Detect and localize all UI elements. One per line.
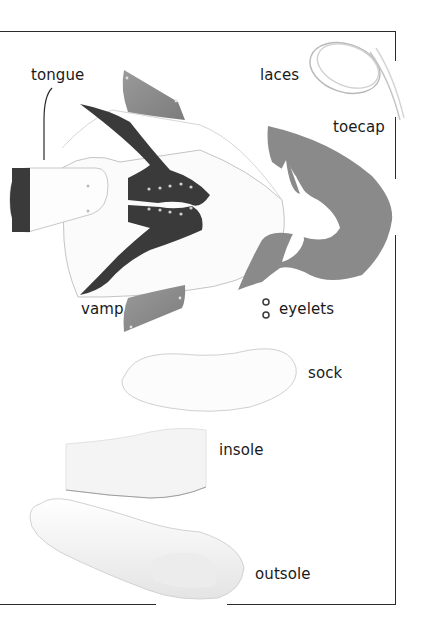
tongue-leader-line (44, 88, 52, 160)
label-tongue: tongue (31, 68, 84, 83)
insole-piece (66, 428, 206, 498)
label-insole: insole (219, 443, 264, 458)
heel-counter-top (123, 70, 185, 120)
laces-artwork (303, 34, 404, 120)
sock-piece (122, 349, 296, 411)
label-outsole: outsole (255, 567, 311, 582)
eyelets-artwork (263, 299, 269, 318)
label-eyelets: eyelets (279, 302, 334, 317)
label-sock: sock (308, 366, 342, 381)
label-laces: laces (260, 68, 299, 83)
shoe-parts-diagram: tongue laces toecap vamp eyelets sock in… (0, 0, 423, 633)
label-toecap: toecap (333, 120, 385, 135)
label-vamp: vamp (81, 302, 124, 317)
shoe-parts-artwork (0, 0, 423, 633)
